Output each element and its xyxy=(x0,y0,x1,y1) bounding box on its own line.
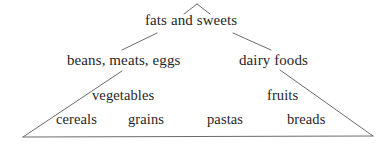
pyramid-label-vegetables: vegetables xyxy=(92,88,154,103)
pyramid-label-breads: breads xyxy=(287,112,325,127)
connector-right-stroke-icon xyxy=(233,33,271,50)
pyramid-label-beans-meats-eggs: beans, meats, eggs xyxy=(67,53,180,68)
food-pyramid-diagram: fats and sweets beans, meats, eggs dairy… xyxy=(0,0,390,146)
pyramid-left-side-icon xyxy=(23,71,122,137)
pyramid-label-dairy-foods: dairy foods xyxy=(239,53,308,68)
pyramid-label-pastas: pastas xyxy=(207,112,243,127)
pyramid-label-grains: grains xyxy=(128,112,164,127)
connector-left-stroke-icon xyxy=(122,33,157,50)
pyramid-label-fruits: fruits xyxy=(267,88,298,103)
pyramid-label-fats-and-sweets: fats and sweets xyxy=(145,13,237,28)
pyramid-label-cereals: cereals xyxy=(56,112,97,127)
pyramid-base-line-icon xyxy=(23,136,373,137)
